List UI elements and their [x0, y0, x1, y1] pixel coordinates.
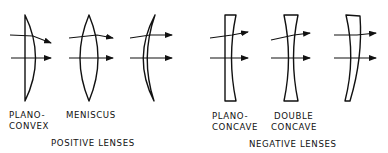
- upper-ray: [271, 33, 310, 40]
- upper-ray: [210, 32, 248, 38]
- label-double-concave-line1: DOUBLE: [274, 111, 313, 121]
- upper-ray: [130, 35, 172, 38]
- negative-lenses-title: NEGATIVE LENSES: [249, 139, 337, 149]
- plano-convex-lens: [10, 15, 51, 101]
- upper-ray: [10, 35, 51, 43]
- plano-concave-lens: [210, 15, 248, 101]
- upper-ray: [334, 33, 376, 35]
- positive-lenses-title: POSITIVE LENSES: [51, 138, 135, 148]
- negative-meniscus-lens: [334, 15, 376, 101]
- double-concave-lens: [271, 15, 310, 101]
- label-plano-concave-line1: PLANO-: [212, 111, 248, 121]
- lens-diagram: [0, 0, 388, 153]
- upper-ray: [69, 35, 113, 38]
- biconvex-lens: [69, 15, 113, 101]
- label-meniscus: MENISCUS: [66, 110, 116, 120]
- positive-meniscus-lens: [130, 15, 172, 101]
- label-plano-concave-line2: CONCAVE: [212, 122, 258, 132]
- label-double-concave-line2: CONCAVE: [271, 122, 317, 132]
- label-plano-convex-line1: PLANO-: [9, 110, 45, 120]
- label-plano-convex-line2: CONVEX: [9, 121, 49, 131]
